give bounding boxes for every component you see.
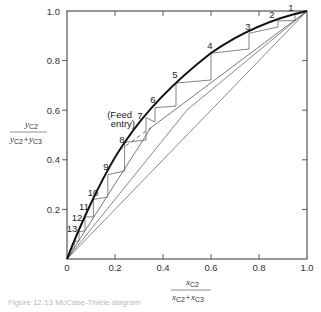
y-tick-labels: 0.2 0.4 0.6 0.8 1.0 [47,6,60,215]
stripping-operating-line [67,128,151,259]
figure-caption: Figure 12.13 McCabe-Thiele diagram [8,298,141,307]
svg-text:xC2: xC2 [185,277,199,288]
stage-label-5: 5 [172,69,177,80]
x-tick-labels: 0 0.2 0.4 0.6 0.8 1.0 [64,262,313,273]
svg-text:xC2+xC3: xC2+xC3 [171,292,204,303]
x-tick-0.4: 0.4 [156,262,169,273]
diagonal-line [67,11,307,259]
stage-label-13: 13 [67,223,78,234]
y-tick-0.4: 0.4 [47,154,60,165]
x-axis-label: xC2 xC2+xC3 [171,277,211,303]
stage-label-11: 11 [79,201,89,212]
feed-entry-annotation: (Feed entry) [107,109,135,129]
mccabe-thiele-diagram: 0 0.2 0.4 0.6 0.8 1.0 0.2 0.4 0.6 0.8 1.… [0,0,321,312]
y-tick-1.0: 1.0 [47,6,60,17]
stage-label-10: 10 [88,187,99,198]
x-tick-1.0: 1.0 [300,262,313,273]
stage-label-2: 2 [269,9,274,20]
x-tick-0.6: 0.6 [204,262,217,273]
stage-label-8: 8 [119,134,124,145]
stage-label-7: 7 [137,110,142,121]
y-axis-label: yC2 yC2+yC3 [9,119,47,145]
stage-label-4: 4 [207,40,212,51]
stage-label-6: 6 [150,94,155,105]
svg-text:yC2: yC2 [24,119,38,130]
stage-label-1: 1 [288,2,293,13]
x-tick-0: 0 [64,262,69,273]
x-tick-0.2: 0.2 [108,262,121,273]
stage-label-3: 3 [245,21,250,32]
svg-text:yC2+yC3: yC2+yC3 [9,134,42,145]
y-tick-0.8: 0.8 [47,55,60,66]
stage-label-12: 12 [72,212,83,223]
y-tick-0.2: 0.2 [47,204,60,215]
y-tick-0.6: 0.6 [47,105,60,116]
svg-text:entry): entry) [111,118,135,129]
stage-label-9: 9 [103,161,108,172]
x-tick-0.8: 0.8 [252,262,265,273]
